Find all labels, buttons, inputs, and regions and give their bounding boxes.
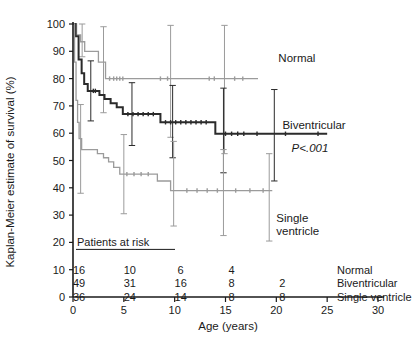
x-tick-label: 15 bbox=[219, 304, 231, 316]
series-label-biventricular: Biventricular bbox=[282, 119, 345, 131]
y-tick-label: 70 bbox=[53, 100, 65, 112]
risk-row-label: Single ventricle bbox=[337, 291, 412, 303]
x-tick-label: 0 bbox=[70, 304, 76, 316]
risk-count: 4 bbox=[228, 264, 234, 276]
confidence-interval-bar bbox=[77, 105, 83, 194]
kaplan-meier-figure: 0102030405060708090100051015202530 Norma… bbox=[0, 0, 420, 347]
risk-count: 8 bbox=[279, 291, 285, 303]
x-tick-label: 25 bbox=[321, 304, 333, 316]
y-tick-label: 80 bbox=[53, 73, 65, 85]
y-tick-label: 40 bbox=[53, 182, 65, 194]
confidence-interval-bar bbox=[170, 141, 176, 226]
y-tick-label: 20 bbox=[53, 236, 65, 248]
risk-count: 16 bbox=[175, 277, 187, 289]
survival-curve-chart: 0102030405060708090100051015202530 Norma… bbox=[0, 0, 420, 347]
y-tick-label: 60 bbox=[53, 127, 65, 139]
y-tick-label: 10 bbox=[53, 264, 65, 276]
risk-count: 10 bbox=[124, 264, 136, 276]
series-label-single-ventricle: Singleventricle bbox=[276, 212, 319, 237]
risk-count: 36 bbox=[73, 291, 85, 303]
y-tick-label: 100 bbox=[47, 18, 65, 30]
series-label-normal: Normal bbox=[278, 52, 315, 64]
risk-count: 2 bbox=[279, 277, 285, 289]
risk-row-label: Normal bbox=[337, 264, 372, 276]
x-tick-label: 30 bbox=[372, 304, 384, 316]
confidence-interval-bars bbox=[77, 24, 277, 241]
risk-count: 49 bbox=[73, 277, 85, 289]
confidence-interval-bar bbox=[266, 154, 272, 241]
y-tick-label: 90 bbox=[53, 45, 65, 57]
y-axis-title: Kaplan-Meier estimate of survival (%) bbox=[4, 76, 16, 267]
risk-count: 6 bbox=[178, 264, 184, 276]
series-labels: NormalBiventricularSingleventricleP<.001 bbox=[276, 52, 346, 237]
x-tick-label: 10 bbox=[169, 304, 181, 316]
risk-count: 14 bbox=[175, 291, 187, 303]
y-tick-label: 50 bbox=[53, 155, 65, 167]
confidence-interval-bar bbox=[271, 90, 277, 181]
confidence-interval-bar bbox=[220, 150, 226, 236]
survival-curve-normal bbox=[73, 24, 258, 79]
risk-count: 8 bbox=[228, 291, 234, 303]
x-axis-title: Age (years) bbox=[198, 320, 258, 332]
risk-count: 16 bbox=[73, 264, 85, 276]
risk-count: 24 bbox=[124, 291, 136, 303]
y-tick-label: 30 bbox=[53, 209, 65, 221]
y-tick-label: 0 bbox=[59, 291, 65, 303]
x-tick-label: 20 bbox=[270, 304, 282, 316]
risk-row-label: Biventricular bbox=[337, 277, 398, 289]
x-tick-label: 5 bbox=[121, 304, 127, 316]
survival-curves bbox=[73, 24, 327, 191]
risk-count: 31 bbox=[124, 277, 136, 289]
risk-table-title: Patients at risk bbox=[77, 236, 150, 248]
axes: 0102030405060708090100051015202530 bbox=[47, 18, 384, 316]
risk-table: Patients at risk161064Normal49311682Bive… bbox=[73, 236, 412, 303]
p-value-annotation: P<.001 bbox=[292, 142, 329, 154]
risk-count: 8 bbox=[228, 277, 234, 289]
